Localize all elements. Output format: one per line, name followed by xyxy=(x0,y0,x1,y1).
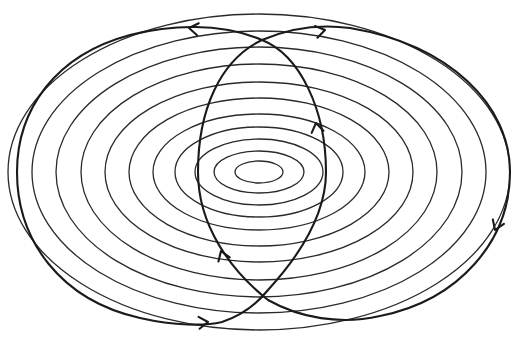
contour-ellipse-11 xyxy=(8,14,510,330)
trajectory-left-loop xyxy=(17,27,326,325)
contour-ellipse-8 xyxy=(81,64,437,280)
contour-ellipse-2 xyxy=(214,151,304,193)
trajectory-right-loop xyxy=(198,27,510,320)
contour-ellipses xyxy=(8,14,510,330)
contour-ellipse-1 xyxy=(235,161,283,183)
contour-ellipse-9 xyxy=(56,47,462,297)
diagram-canvas xyxy=(0,0,514,345)
arrow-top-left-icon xyxy=(188,22,199,35)
contour-ellipse-10 xyxy=(32,31,486,313)
contour-ellipse-5 xyxy=(153,114,365,230)
contour-ellipse-6 xyxy=(129,98,389,246)
contour-ellipse-7 xyxy=(105,82,413,262)
phase-portrait-diagram xyxy=(0,0,514,345)
